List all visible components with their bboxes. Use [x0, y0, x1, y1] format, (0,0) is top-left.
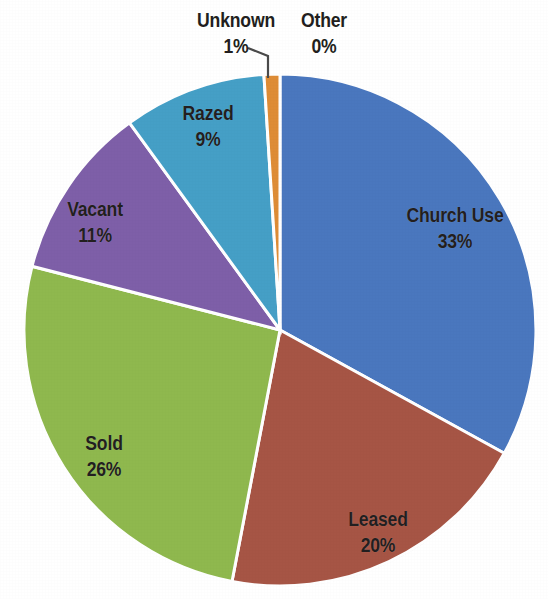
pie-chart-canvas — [0, 0, 548, 599]
slice-label-vacant: Vacant 11% — [38, 196, 152, 249]
slice-label-unknown: Unknown 1% — [181, 7, 290, 60]
slice-label-leased-name: Leased — [321, 506, 435, 532]
slice-label-other-name: Other — [282, 7, 366, 33]
slice-label-church-use-name: Church Use — [393, 202, 516, 228]
slice-label-other-value: 0% — [282, 33, 366, 59]
slice-label-vacant-name: Vacant — [38, 196, 152, 222]
slice-label-sold-value: 26% — [51, 456, 157, 482]
slice-label-sold-name: Sold — [51, 430, 157, 456]
pie-chart: Church Use 33% Leased 20% Sold 26% Vacan… — [0, 0, 548, 599]
slice-label-razed: Razed 9% — [155, 100, 261, 153]
slice-label-razed-value: 9% — [155, 126, 261, 152]
slice-label-razed-name: Razed — [155, 100, 261, 126]
slice-label-other: Other 0% — [282, 7, 366, 60]
slice-label-church-use: Church Use 33% — [393, 202, 516, 255]
slice-label-church-use-value: 33% — [393, 228, 516, 254]
slice-label-unknown-name: Unknown — [181, 7, 290, 33]
slice-label-leased: Leased 20% — [321, 506, 435, 559]
slice-label-vacant-value: 11% — [38, 222, 152, 248]
slice-label-leased-value: 20% — [321, 532, 435, 558]
slice-label-unknown-value: 1% — [181, 33, 290, 59]
slice-label-sold: Sold 26% — [51, 430, 157, 483]
